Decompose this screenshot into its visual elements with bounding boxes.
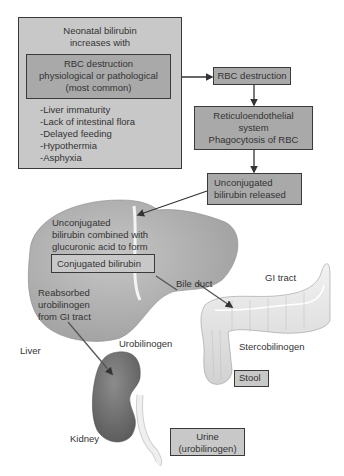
stercobilinogen-label: Stercobilinogen	[239, 341, 305, 353]
urine-label: Urine	[171, 431, 244, 443]
factor-item: -Lack of intestinal flora	[40, 116, 135, 128]
factor-item: -Delayed feeding	[40, 128, 135, 140]
conjugated-bilirubin-label: Conjugated bilirubin	[57, 258, 141, 269]
liver-text-line: glucuronic acid to form	[52, 241, 148, 253]
stool-label: Stool	[239, 372, 261, 383]
stool-box: Stool	[234, 370, 269, 387]
liver-text-line: Unconjugated	[52, 217, 148, 229]
causes-title-line: Neonatal bilirubin	[18, 25, 182, 37]
factor-item: -Asphyxia	[40, 152, 135, 164]
gi-tract-label: GI tract	[265, 272, 296, 284]
flow-box-label: bilirubin released	[214, 189, 301, 201]
causes-title-line: increases with	[18, 37, 182, 49]
liver-label: Liver	[20, 345, 41, 357]
reabsorbed-line: urobilinogen	[38, 299, 91, 311]
urobilinogen-label: Urobilinogen	[119, 338, 172, 350]
liver-process-text: Unconjugated bilirubin combined with glu…	[52, 217, 148, 253]
highlight-line: RBC destruction	[26, 58, 171, 70]
causes-title: Neonatal bilirubin increases with	[18, 25, 182, 49]
bile-duct-label: Bile duct	[176, 278, 212, 290]
reabsorbed-line: from GI tract	[38, 311, 91, 323]
flow-box-label: Phagocytosis of RBC	[195, 134, 312, 146]
reabsorbed-urobilinogen-text: Reabsorbed urobilinogen from GI tract	[38, 287, 91, 323]
flow-box-label: Reticuloendothelial	[195, 110, 312, 122]
liver-text-line: bilirubin combined with	[52, 229, 148, 241]
flow-box-unconjugated-released: Unconjugated bilirubin released	[207, 173, 302, 205]
flow-box-label: RBC destruction	[214, 68, 290, 84]
factor-item: -Liver immaturity	[40, 104, 135, 116]
kidney-label: Kidney	[70, 433, 99, 445]
factors-list: -Liver immaturity -Lack of intestinal fl…	[40, 104, 135, 164]
highlight-line: (most common)	[26, 82, 171, 94]
factor-item: -Hypothermia	[40, 140, 135, 152]
urine-label: (urobilinogen)	[171, 443, 244, 455]
flow-box-reticuloendothelial: Reticuloendothelial system Phagocytosis …	[194, 106, 313, 150]
highlight-line: physiological or pathological	[26, 70, 171, 82]
flow-box-label: Unconjugated	[214, 177, 301, 189]
flow-box-label: system	[195, 122, 312, 134]
flow-box-rbc-destruction: RBC destruction	[213, 67, 291, 85]
urine-box: Urine (urobilinogen)	[170, 428, 245, 456]
kidney-illustration	[92, 352, 158, 464]
rbc-destruction-highlight-text: RBC destruction physiological or patholo…	[26, 58, 171, 94]
reabsorbed-line: Reabsorbed	[38, 287, 91, 299]
conjugated-bilirubin-box: Conjugated bilirubin	[51, 254, 155, 273]
